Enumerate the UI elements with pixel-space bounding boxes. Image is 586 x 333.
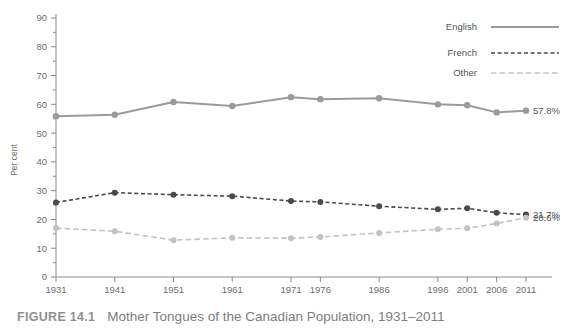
y-tick-label: 70 [36, 70, 47, 81]
data-point-english [229, 103, 235, 109]
data-point-english [170, 99, 176, 105]
data-point-french [376, 203, 382, 209]
x-tick-label: 2011 [516, 284, 536, 295]
data-point-english [435, 101, 441, 107]
y-tick-label: 90 [36, 12, 47, 23]
y-tick-label: 0 [42, 271, 47, 282]
data-point-french [288, 198, 294, 204]
x-tick-label: 1986 [369, 284, 390, 295]
x-tick-label: 1941 [104, 284, 125, 295]
end-labels: 57.8%21.7%20.6% [533, 105, 560, 223]
figure-caption: FIGURE 14.1 Mother Tongues of the Canadi… [0, 300, 586, 333]
data-point-english [464, 102, 470, 108]
legend-label-french: French [447, 47, 477, 58]
data-point-other [53, 225, 59, 231]
y-axis-title: Per cent [9, 144, 19, 176]
y-tick-label: 10 [36, 243, 47, 254]
data-point-english [112, 111, 118, 117]
series-group [53, 94, 529, 243]
line-chart: 0102030405060708090 19311941195119611971… [0, 0, 586, 296]
end-label-english: 57.8% [533, 105, 560, 116]
data-point-other [494, 220, 500, 226]
data-point-other [288, 235, 294, 241]
x-tick-label: 1931 [45, 284, 66, 295]
data-point-french [494, 210, 500, 216]
x-tick-label: 1976 [310, 284, 331, 295]
data-point-english [288, 94, 294, 100]
data-point-other [229, 235, 235, 241]
y-tick-label: 30 [36, 185, 47, 196]
x-tick-label: 1961 [222, 284, 243, 295]
x-tick-label: 2001 [457, 284, 478, 295]
legend-label-english: English [446, 21, 477, 32]
data-point-french [112, 190, 118, 196]
data-point-french [53, 199, 59, 205]
data-point-english [376, 95, 382, 101]
data-point-other [435, 226, 441, 232]
end-label-other: 20.6% [533, 212, 560, 223]
y-tick-label: 60 [36, 99, 47, 110]
data-point-other [376, 230, 382, 236]
x-tick-label: 2006 [486, 284, 507, 295]
chart-legend: EnglishFrenchOther [446, 21, 559, 78]
data-point-english [317, 96, 323, 102]
legend-label-other: Other [453, 67, 477, 78]
data-point-english [523, 107, 529, 113]
x-tick-label: 1971 [280, 284, 301, 295]
data-point-french [317, 199, 323, 205]
y-tick-label: 20 [36, 214, 47, 225]
data-point-french [171, 192, 177, 198]
data-point-french [435, 206, 441, 212]
x-axis: 1931194119511961197119761986199620012006… [45, 277, 552, 295]
y-tick-label: 80 [36, 41, 47, 52]
data-point-other [464, 225, 470, 231]
data-point-english [493, 109, 499, 115]
data-point-other [523, 215, 529, 221]
data-point-english [53, 113, 59, 119]
figure-number: FIGURE 14.1 [17, 310, 95, 324]
data-point-other [317, 234, 323, 240]
y-tick-label: 50 [36, 128, 47, 139]
data-point-other [112, 228, 118, 234]
data-point-french [464, 205, 470, 211]
data-point-other [171, 237, 177, 243]
chart-area: 0102030405060708090 19311941195119611971… [0, 0, 586, 296]
data-point-french [229, 193, 235, 199]
figure-container: 0102030405060708090 19311941195119611971… [0, 0, 586, 333]
figure-title: Mother Tongues of the Canadian Populatio… [107, 309, 444, 324]
y-tick-label: 40 [36, 156, 47, 167]
x-tick-label: 1951 [163, 284, 184, 295]
y-axis: 0102030405060708090 [36, 12, 56, 282]
x-tick-label: 1996 [427, 284, 448, 295]
